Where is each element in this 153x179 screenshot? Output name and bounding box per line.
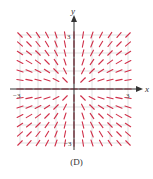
slope-segment bbox=[45, 60, 50, 65]
slope-segment bbox=[35, 97, 41, 99]
slope-field-figure: x y −3 3 3 −3 (D) bbox=[0, 0, 153, 179]
slope-segment bbox=[17, 79, 23, 80]
slope-segment bbox=[64, 113, 66, 119]
slope-segment bbox=[117, 132, 122, 137]
slope-segment bbox=[82, 59, 84, 65]
slope-segment bbox=[99, 41, 102, 46]
slope-segment bbox=[63, 78, 68, 83]
slope-segment bbox=[116, 97, 122, 98]
slope-segment bbox=[82, 41, 83, 47]
y-axis-arrow-icon bbox=[71, 15, 77, 22]
slope-segment bbox=[82, 140, 83, 146]
slope-segment bbox=[98, 79, 104, 81]
slope-segment bbox=[64, 32, 65, 38]
slope-segment bbox=[63, 96, 68, 101]
slope-segment bbox=[45, 131, 48, 136]
slope-segment bbox=[26, 114, 31, 117]
y-axis-label: y bbox=[70, 6, 75, 16]
slope-segment bbox=[116, 114, 121, 117]
slope-segment bbox=[98, 97, 104, 99]
slope-segment bbox=[45, 41, 48, 46]
slope-segment bbox=[64, 122, 66, 128]
x-axis-arrow-icon bbox=[136, 86, 143, 92]
axis-labels: x y −3 3 3 −3 bbox=[13, 6, 149, 148]
slope-segment bbox=[44, 79, 50, 81]
slope-segment bbox=[107, 79, 113, 81]
slope-segment bbox=[82, 122, 84, 128]
slope-segment bbox=[81, 78, 86, 83]
slope-segment bbox=[82, 50, 84, 56]
slope-segment bbox=[44, 97, 50, 99]
slope-segment bbox=[82, 32, 83, 38]
figure-caption: (D) bbox=[0, 157, 153, 167]
slope-segment bbox=[82, 113, 84, 119]
slope-segment bbox=[64, 41, 65, 47]
slope-segment bbox=[27, 132, 32, 137]
slope-segment bbox=[99, 114, 104, 119]
slope-segment bbox=[45, 114, 50, 119]
slope-segment bbox=[26, 79, 32, 80]
x-axis-label: x bbox=[144, 84, 149, 94]
slope-segment bbox=[107, 97, 113, 99]
slope-segment bbox=[117, 42, 122, 47]
slope-segment bbox=[116, 60, 121, 63]
slope-segment bbox=[99, 60, 104, 65]
slope-segment bbox=[99, 131, 102, 136]
y-max-tick-label: 3 bbox=[67, 33, 71, 41]
slope-segment bbox=[125, 79, 131, 80]
slope-segment bbox=[82, 131, 83, 137]
slope-segment bbox=[27, 42, 32, 47]
slope-segment bbox=[26, 97, 32, 98]
slope-segment bbox=[64, 59, 66, 65]
x-max-tick-label: 3 bbox=[126, 92, 130, 100]
slope-segment bbox=[116, 79, 122, 80]
slope-segment bbox=[81, 96, 86, 101]
slope-segment bbox=[64, 50, 66, 56]
x-min-tick-label: −3 bbox=[13, 92, 21, 100]
slope-field-plot: x y −3 3 3 −3 bbox=[0, 0, 153, 179]
slope-segment bbox=[64, 131, 65, 137]
slope-segment bbox=[35, 79, 41, 81]
y-min-tick-label: −3 bbox=[64, 140, 72, 148]
slope-segment bbox=[26, 60, 31, 63]
